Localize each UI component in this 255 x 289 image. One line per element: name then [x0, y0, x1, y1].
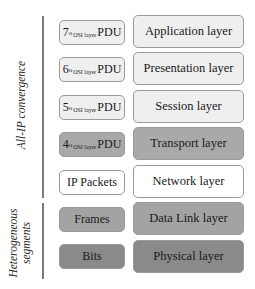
pdu-layer-number: 5 — [63, 100, 69, 115]
pdu-osi-subscript: OSI layer — [73, 69, 96, 75]
heterogeneous-bracket-line — [42, 203, 44, 279]
pdu-box-layer6: 6oOSI layerPDU — [59, 57, 125, 82]
pdu-box-layer4: 4oOSI layerPDU — [59, 132, 125, 157]
pdu-layer-number: 6 — [63, 62, 69, 77]
heterogeneous-label-line1: Heterogeneous — [7, 198, 20, 288]
layer-box-presentation: Presentation layer — [133, 52, 244, 85]
heterogeneous-label-line2: segments — [20, 198, 33, 288]
pdu-osi-subscript: OSI layer — [73, 32, 96, 38]
pdu-layer-number: 4 — [63, 137, 69, 152]
layer-box-physical: Physical layer — [133, 240, 244, 273]
layer-box-transport: Transport layer — [133, 127, 244, 160]
pdu-box-layer5: 5oOSI layerPDU — [59, 95, 125, 120]
convergence-bracket-line — [42, 16, 44, 198]
layer-box-application: Application layer — [133, 15, 244, 48]
pdu-word: PDU — [97, 25, 121, 40]
all-ip-convergence-label: All-IP convergence — [15, 45, 29, 165]
pdu-osi-subscript: OSI layer — [73, 107, 96, 113]
pdu-box-layer7: 7oOSI layerPDU — [59, 20, 125, 45]
pdu-layer-number: 7 — [63, 25, 69, 40]
pdu-box-bits: Bits — [59, 244, 125, 269]
pdu-word: PDU — [97, 137, 121, 152]
pdu-box-ip-packets: IP Packets — [59, 170, 125, 195]
layer-box-data-link: Data Link layer — [133, 202, 244, 235]
pdu-box-frames: Frames — [59, 207, 125, 232]
pdu-word: PDU — [97, 62, 121, 77]
heterogeneous-segments-label: Heterogeneous segments — [7, 198, 35, 288]
layer-box-session: Session layer — [133, 90, 244, 123]
pdu-osi-subscript: OSI layer — [73, 144, 96, 150]
pdu-word: PDU — [97, 100, 121, 115]
layer-box-network: Network layer — [133, 165, 244, 198]
